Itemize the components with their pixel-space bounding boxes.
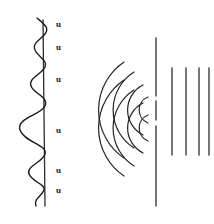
axis-label-u-6: u	[56, 186, 61, 195]
wavefront-arc-u1	[139, 97, 148, 123]
plane-wavefronts-group	[172, 68, 209, 155]
axis-label-u-1: u	[56, 20, 61, 29]
circular-wavefronts-lower	[99, 80, 148, 176]
vertical-axis-line	[43, 20, 45, 206]
wavefront-arc-u4	[99, 62, 124, 158]
circular-wavefronts-upper	[99, 62, 148, 158]
axis-label-u-2: u	[56, 43, 61, 52]
axis-label-u-5: u	[56, 166, 61, 175]
axis-label-u-3: u	[56, 75, 61, 84]
wavefront-arc-l4	[99, 80, 124, 176]
left-panel-group	[20, 18, 47, 206]
wavefront-arc-l1	[139, 115, 148, 141]
axis-label-u-4: u	[56, 126, 61, 135]
figure-canvas: u u u u u u	[0, 0, 214, 224]
diagram-svg	[0, 0, 214, 224]
